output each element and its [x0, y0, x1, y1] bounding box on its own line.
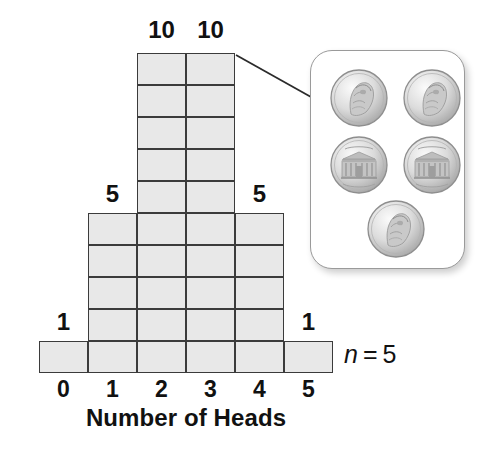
coin-tails-icon — [329, 135, 389, 195]
bar-cell — [88, 341, 137, 373]
bar-cell — [137, 309, 186, 341]
count-label-col-2: 10 — [137, 18, 186, 42]
coin-heads-icon — [329, 68, 389, 128]
bar-cell — [39, 341, 88, 373]
sample-size-equals: = — [363, 340, 378, 368]
bar-cell — [88, 213, 137, 245]
sample-size-value: 5 — [383, 340, 397, 368]
bar-cell — [186, 85, 235, 117]
count-label-col-0: 1 — [39, 310, 88, 334]
count-label-col-1: 5 — [88, 182, 137, 206]
bar-cell — [137, 245, 186, 277]
coin-heads-icon — [402, 68, 462, 128]
bar-cell — [235, 277, 284, 309]
bar-cell — [137, 85, 186, 117]
x-tick-5: 5 — [284, 378, 333, 401]
bar-cell — [88, 245, 137, 277]
sample-size-variable: n — [344, 340, 358, 368]
bar-cell — [284, 341, 333, 373]
bar-cell — [235, 213, 284, 245]
bar-cell — [186, 53, 235, 85]
coin-heads-icon — [366, 199, 426, 259]
chart-canvas: 1 5 10 10 5 1 0 1 2 3 4 5 Number of Head… — [0, 0, 498, 457]
bar-cell — [137, 181, 186, 213]
bar-cell — [137, 149, 186, 181]
bar-cell — [235, 309, 284, 341]
x-tick-4: 4 — [235, 378, 284, 401]
bar-cell — [235, 341, 284, 373]
bar-cell — [186, 309, 235, 341]
bar-cell — [137, 53, 186, 85]
bar-cell — [137, 277, 186, 309]
x-tick-2: 2 — [137, 378, 186, 401]
bar-cell — [186, 117, 235, 149]
bar-cell — [88, 277, 137, 309]
bar-cell — [186, 277, 235, 309]
bar-cell — [137, 213, 186, 245]
bar-cell — [88, 309, 137, 341]
coin-tails-icon — [402, 135, 462, 195]
count-label-col-5: 1 — [284, 310, 333, 334]
count-label-col-4: 5 — [235, 182, 284, 206]
bar-cell — [186, 341, 235, 373]
bar-cell — [186, 245, 235, 277]
bar-cell — [137, 117, 186, 149]
bar-cell — [186, 213, 235, 245]
x-tick-0: 0 — [39, 378, 88, 401]
sample-size-annotation: n=5 — [344, 340, 396, 369]
bar-cell — [137, 341, 186, 373]
count-label-col-3: 10 — [186, 18, 235, 42]
bar-cell — [186, 149, 235, 181]
coin-outcome-panel — [310, 50, 465, 269]
bar-cell — [235, 245, 284, 277]
x-tick-3: 3 — [186, 378, 235, 401]
x-axis-title: Number of Heads — [0, 404, 372, 432]
bar-cell — [186, 181, 235, 213]
x-tick-1: 1 — [88, 378, 137, 401]
